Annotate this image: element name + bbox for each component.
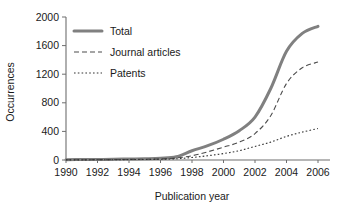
x-axis-title: Publication year [155, 190, 230, 202]
x-axis-tick-labels: 199019921994199619982000200220042006 [54, 166, 330, 178]
legend-label-patents: Patents [110, 67, 146, 79]
x-tick-label: 2006 [306, 166, 330, 178]
x-tick-label: 2000 [212, 166, 236, 178]
y-tick-label: 1600 [36, 39, 60, 51]
y-tick-label: 1200 [36, 68, 60, 80]
x-tick-label: 1996 [149, 166, 173, 178]
y-tick-label: 0 [53, 154, 59, 166]
y-axis-ticks [62, 17, 66, 160]
plot-area-background [66, 17, 318, 160]
y-axis-tick-labels: 0400800120016002000 [36, 11, 60, 166]
line-chart-canvas: 0400800120016002000 19901992199419961998… [0, 0, 339, 206]
chart-figure: 0400800120016002000 19901992199419961998… [0, 0, 339, 206]
legend-label-journal-articles: Journal articles [110, 46, 181, 58]
x-tick-label: 2002 [243, 166, 267, 178]
x-tick-label: 1998 [180, 166, 204, 178]
y-tick-label: 2000 [36, 11, 60, 23]
x-tick-label: 1994 [117, 166, 141, 178]
legend-label-total: Total [110, 25, 132, 37]
x-tick-label: 1992 [86, 166, 110, 178]
y-axis-title: Occurrences [4, 62, 16, 122]
y-tick-label: 800 [41, 96, 59, 108]
y-tick-label: 400 [41, 125, 59, 137]
x-tick-label: 1990 [54, 166, 78, 178]
x-tick-label: 2004 [275, 166, 299, 178]
